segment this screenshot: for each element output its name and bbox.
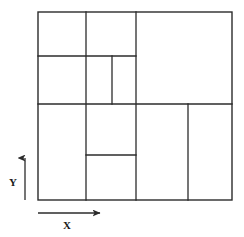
y-axis-label: Y <box>9 176 17 188</box>
y-axis-group: Y <box>9 158 25 200</box>
x-axis-group: X <box>38 213 100 231</box>
outer-rectangle-group <box>38 12 232 200</box>
partition-diagram: Y X <box>0 0 244 237</box>
outer-rectangle <box>38 12 232 200</box>
x-axis-label: X <box>63 219 71 231</box>
figure-root: Y X <box>0 0 244 237</box>
